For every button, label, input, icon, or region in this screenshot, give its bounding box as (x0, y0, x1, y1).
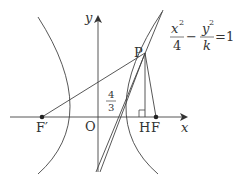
hyperbola-equation: x 2 4 − y 2 k =1 (170, 18, 234, 53)
x-axis-label: x (181, 120, 189, 135)
line-p-lower (100, 53, 145, 172)
tangent-line (96, 10, 163, 172)
point-f-prime (40, 115, 45, 120)
slope-denominator: 3 (108, 102, 114, 113)
hyperbola-left-branch (38, 17, 70, 174)
point-p-label: P (134, 45, 143, 60)
eq-numerator-x: x (171, 21, 179, 36)
segment-p-f (145, 53, 156, 117)
hyperbola-right-branch (126, 12, 162, 174)
point-h-label: H (139, 120, 150, 135)
hyperbola-diagram: y x O P F F′ H 4 3 x 2 4 − y 2 k =1 (0, 0, 246, 179)
segment-f-prime-p (42, 53, 145, 117)
origin-label: O (85, 119, 96, 134)
right-angle-mark (139, 110, 145, 117)
y-axis-label: y (84, 10, 93, 25)
eq-denominator-k: k (203, 38, 211, 53)
slope-numerator: 4 (108, 89, 114, 100)
eq-exp-y: 2 (209, 18, 214, 27)
eq-denominator-4: 4 (173, 38, 181, 53)
eq-exp-x: 2 (179, 18, 184, 27)
point-f (154, 115, 159, 120)
point-f-prime-label: F′ (36, 120, 48, 135)
eq-equals-one: =1 (215, 29, 234, 44)
point-f-label: F (151, 120, 160, 135)
eq-minus: − (186, 29, 197, 44)
